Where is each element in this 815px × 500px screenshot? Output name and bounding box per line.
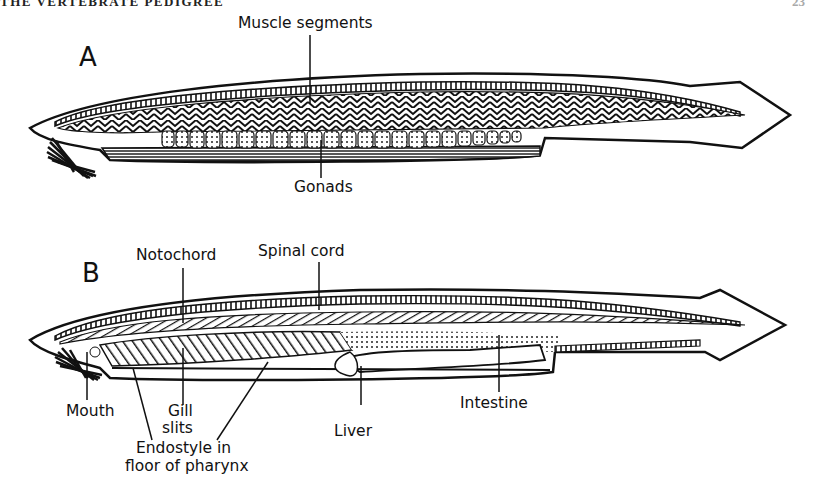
label-muscle-segments: Muscle segments — [238, 14, 373, 32]
body-outline-a — [30, 74, 790, 162]
label-endostyle-2: floor of pharynx — [125, 457, 249, 475]
label-mouth: Mouth — [66, 402, 115, 420]
label-liver: Liver — [334, 422, 372, 440]
gonads-a — [162, 131, 521, 148]
label-gill-slits-1: Gill — [168, 402, 193, 420]
label-spinal-cord: Spinal cord — [258, 242, 344, 260]
label-intestine: Intestine — [460, 394, 528, 412]
label-notochord: Notochord — [136, 246, 216, 264]
body-outline-b — [30, 289, 785, 380]
panel-label-a: A — [79, 42, 97, 72]
label-gill-slits-2: slits — [162, 419, 193, 437]
panel-label-b: B — [82, 258, 100, 288]
label-gonads: Gonads — [294, 178, 353, 196]
amphioxus-diagram-a — [0, 0, 815, 500]
label-endostyle-1: Endostyle in — [136, 439, 231, 457]
